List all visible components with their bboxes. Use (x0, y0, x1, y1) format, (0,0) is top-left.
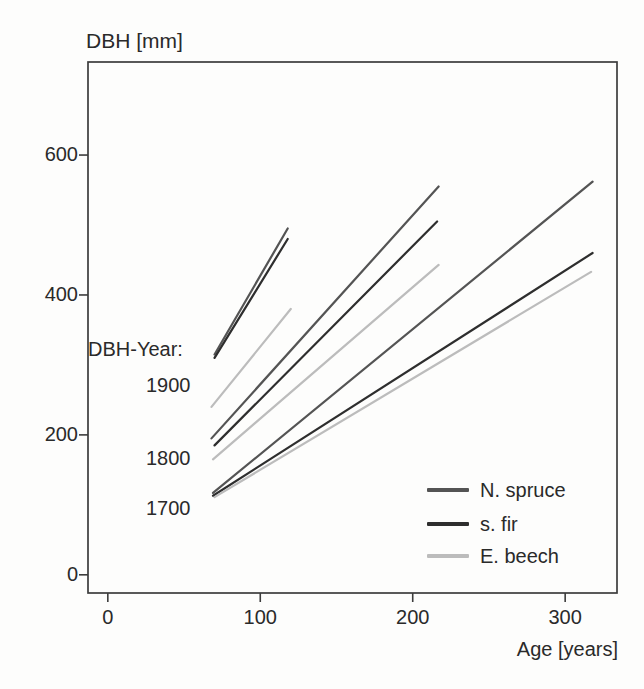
series-line-s--fir-1900 (215, 239, 288, 358)
x-axis-label: Age [years] (517, 638, 618, 661)
year-label-1900: 1900 (146, 374, 191, 397)
legend-label-n-spruce: N. spruce (480, 479, 566, 501)
x-tick-label: 100 (230, 606, 290, 629)
series-line-e--beech-1700 (215, 272, 592, 497)
year-label-1700: 1700 (146, 497, 191, 520)
x-tick-label: 0 (78, 606, 138, 629)
series-line-e--beech-1900 (211, 309, 290, 407)
series-line-n--spruce-1700 (213, 182, 593, 493)
legend-item-s-fir: s. fir (427, 513, 518, 535)
legend-item-e-beech: E. beech (427, 545, 559, 567)
series-line-s--fir-1800 (215, 222, 438, 446)
y-tick-label: 600 (20, 143, 78, 166)
n-spruce-line-swatch (427, 488, 469, 492)
y-tick-label: 400 (20, 283, 78, 306)
series-line-n--spruce-1900 (215, 229, 288, 355)
chart-title: DBH [mm] (86, 29, 183, 53)
e-beech-line-swatch (427, 554, 469, 558)
legend-item-n-spruce: N. spruce (427, 479, 566, 501)
x-tick-label: 200 (383, 606, 443, 629)
y-tick-label: 200 (20, 423, 78, 446)
legend-label-e-beech: E. beech (480, 545, 559, 567)
y-tick-label: 0 (20, 563, 78, 586)
x-tick-label: 300 (535, 606, 595, 629)
year-label-1800: 1800 (146, 447, 191, 470)
figure-page: DBH [mm] DBH-Year: 1900 1800 1700 Age [y… (0, 0, 644, 689)
dbh-year-annotation-header: DBH-Year: (88, 338, 183, 361)
s-fir-line-swatch (427, 522, 469, 526)
legend-label-s-fir: s. fir (480, 513, 518, 535)
